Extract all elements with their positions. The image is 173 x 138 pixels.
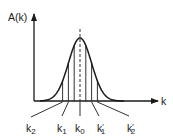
label-k2: k2: [26, 122, 36, 136]
label-k2p: k′2: [127, 122, 136, 136]
label-leader-lines: [31, 102, 129, 117]
label-k1: k1: [57, 122, 67, 136]
label-k1p: k′1: [97, 122, 106, 136]
y-axis-label: A(k): [8, 11, 27, 23]
leader-line-k2: [31, 102, 63, 117]
wave-packet-diagram: A(k) k k2k1k0k′1k′2: [0, 0, 173, 138]
k-labels: k2k1k0k′1k′2: [26, 122, 136, 136]
leader-line-k2p: [97, 102, 129, 116]
leader-line-k1p: [92, 102, 99, 116]
gaussian-curve: [40, 38, 124, 101]
label-k0: k0: [75, 122, 85, 136]
x-axis-label: k: [161, 95, 167, 107]
leader-line-k1: [62, 102, 68, 116]
